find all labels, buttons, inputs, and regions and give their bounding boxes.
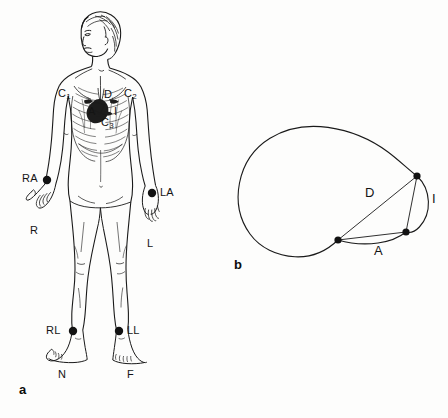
label-c3: C3 xyxy=(101,117,114,130)
head-group xyxy=(81,12,121,59)
panel-label-a: a xyxy=(19,383,26,396)
label-lead-i: I xyxy=(432,192,436,205)
electrode-dot-la xyxy=(148,189,156,197)
label-vector-a: A xyxy=(88,106,96,117)
panel-label-b: b xyxy=(234,258,242,271)
legs-group xyxy=(70,201,131,330)
label-ra: RA xyxy=(22,173,38,184)
label-c3-index: 3 xyxy=(109,121,114,130)
figure-root: RA LA R L RL LL N F C1 C2 C3 D A I D I A… xyxy=(0,0,448,418)
electrode-dot-ll xyxy=(115,327,123,335)
vertex-left xyxy=(334,236,341,243)
vertex-inferior-right xyxy=(402,228,409,235)
chord-a xyxy=(338,232,406,240)
label-n: N xyxy=(58,369,66,380)
electrode-dot-rl xyxy=(69,327,77,335)
chord-i xyxy=(406,176,417,232)
label-vector-i: I xyxy=(114,106,117,117)
label-vector-d: D xyxy=(104,89,112,100)
label-la: LA xyxy=(160,187,174,198)
label-lead-d: D xyxy=(365,186,374,199)
electrode-dots-a xyxy=(43,176,156,335)
label-c1-letter: C xyxy=(58,87,66,99)
label-lead-a: A xyxy=(374,244,383,257)
label-c2: C2 xyxy=(124,88,137,101)
label-r: R xyxy=(30,225,38,236)
label-c2-letter: C xyxy=(124,87,132,99)
label-ll: LL xyxy=(127,325,140,336)
panel-b-illustration xyxy=(238,126,428,256)
label-c2-index: 2 xyxy=(132,92,137,101)
label-l: L xyxy=(147,238,153,249)
electrode-dot-ra xyxy=(43,176,51,184)
label-c3-letter: C xyxy=(101,116,109,128)
label-rl: RL xyxy=(46,325,60,336)
panel-a-illustration xyxy=(0,0,448,418)
label-c1: C1 xyxy=(58,88,71,101)
vertex-superior-right xyxy=(413,172,420,179)
label-c1-index: 1 xyxy=(66,92,71,101)
label-f: F xyxy=(127,369,134,380)
